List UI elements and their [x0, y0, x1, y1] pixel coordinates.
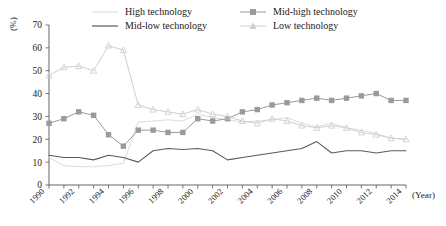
data-point-marker — [269, 102, 274, 107]
data-point-marker — [314, 95, 319, 100]
legend-label: Low technology — [273, 20, 338, 31]
data-point-marker — [121, 143, 126, 148]
y-axis-tick-label: 10 — [33, 158, 43, 168]
data-point-marker — [76, 109, 81, 114]
data-point-marker — [150, 127, 155, 132]
series-high-technology — [49, 114, 406, 167]
data-point-marker — [91, 113, 96, 118]
series-mid-low-technology — [49, 142, 406, 163]
y-axis-tick-label: 70 — [33, 20, 43, 30]
y-axis-tick-label: 30 — [33, 112, 43, 122]
data-point-marker — [255, 107, 260, 112]
data-point-marker — [388, 98, 393, 103]
legend-item-mid-high-technology[interactable] — [240, 9, 266, 15]
chart-container: High technologyMid-high technologyMid-lo… — [0, 0, 446, 226]
series-mid-high-technology — [46, 91, 408, 149]
data-point-marker — [180, 130, 185, 135]
data-point-marker — [284, 100, 289, 105]
y-axis-tick-label: 40 — [33, 89, 43, 99]
y-axis-title: (%) — [8, 17, 18, 31]
x-axis-tick-label: 1990 — [27, 186, 46, 205]
axis-lines — [49, 25, 406, 185]
data-point-marker — [136, 127, 141, 132]
x-axis-tick-label: 1996 — [116, 186, 136, 206]
series-line — [49, 114, 406, 167]
data-point-marker — [195, 116, 200, 121]
legend-item-low-technology[interactable] — [240, 23, 266, 29]
line-chart: High technologyMid-high technologyMid-lo… — [0, 0, 446, 226]
y-axis-tick-label: 50 — [33, 66, 43, 76]
x-axis-title: (Year) — [412, 190, 435, 200]
data-point-marker — [374, 91, 379, 96]
x-axis-tick-label: 2014 — [384, 186, 404, 206]
x-axis-tick-label: 2010 — [325, 186, 344, 205]
x-axis-tick-label: 2012 — [354, 186, 373, 205]
legend-label: High technology — [125, 6, 192, 17]
x-axis-tick-label: 2006 — [265, 186, 285, 206]
y-axis-tick-label: 20 — [33, 135, 43, 145]
x-axis-tick-label: 2002 — [206, 186, 225, 205]
y-axis-tick-label: 60 — [33, 43, 43, 53]
data-point-marker — [240, 109, 245, 114]
x-axis-tick-label: 2008 — [295, 186, 314, 205]
data-point-marker — [359, 93, 364, 98]
data-point-marker — [165, 130, 170, 135]
series-line — [49, 142, 406, 163]
data-point-marker — [210, 118, 215, 123]
data-point-marker — [299, 98, 304, 103]
legend-square-marker-icon — [250, 9, 256, 15]
series-low-technology — [46, 42, 409, 141]
legend-label: Mid-high technology — [273, 6, 358, 17]
data-point-marker — [403, 98, 408, 103]
legend-label: Mid-low technology — [125, 20, 207, 31]
x-axis-tick-label: 1998 — [146, 186, 165, 205]
x-axis-tick-label: 1994 — [87, 186, 107, 206]
data-point-marker — [46, 121, 51, 126]
series-line — [49, 46, 406, 140]
x-axis-tick-label: 1992 — [57, 186, 76, 205]
data-point-marker — [106, 132, 111, 137]
x-axis-tick-label: 2000 — [176, 186, 195, 205]
data-point-marker — [344, 95, 349, 100]
x-axis-tick-label: 2004 — [235, 186, 255, 206]
data-point-marker — [329, 98, 334, 103]
data-point-marker — [61, 116, 66, 121]
